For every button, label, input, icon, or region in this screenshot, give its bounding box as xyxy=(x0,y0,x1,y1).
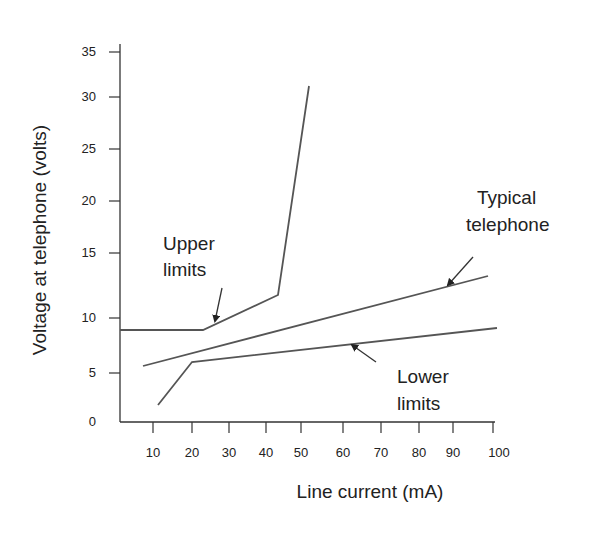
annotation-text: telephone xyxy=(466,214,549,235)
upper-limits-arrow-icon xyxy=(215,288,222,321)
annotation-text: Upper xyxy=(163,233,215,254)
x-tick-label: 50 xyxy=(294,445,308,460)
annotation-text: Lower xyxy=(397,366,449,387)
annotation-upper-limits: Upper limits xyxy=(163,233,215,280)
x-tick-label: 10 xyxy=(146,445,160,460)
y-tick-label: 35 xyxy=(82,44,96,59)
annotation-lower-limits: Lower limits xyxy=(397,366,449,414)
annotation-text: limits xyxy=(397,393,440,414)
annotation-text: Typical xyxy=(477,187,536,208)
y-axis-title: Voltage at telephone (volts) xyxy=(29,125,50,355)
x-tick-label: 30 xyxy=(222,445,236,460)
x-tick-label: 100 xyxy=(488,445,510,460)
x-tick-label: 40 xyxy=(259,445,273,460)
y-tick-label: 25 xyxy=(82,141,96,156)
annotation-typical-telephone: Typical telephone xyxy=(466,187,549,235)
y-tick-label: 5 xyxy=(89,365,96,380)
x-axis xyxy=(120,422,495,433)
lower-limits-arrow-icon xyxy=(352,345,376,362)
y-tick-label: 30 xyxy=(82,89,96,104)
y-tick-label: 20 xyxy=(82,193,96,208)
y-axis xyxy=(109,44,120,422)
x-tick-label: 20 xyxy=(185,445,199,460)
x-tick-label: 70 xyxy=(374,445,388,460)
x-tick-label: 90 xyxy=(446,445,460,460)
y-tick-label: 15 xyxy=(82,245,96,260)
x-axis-title: Line current (mA) xyxy=(297,481,444,502)
x-tick-labels: 10 20 30 40 50 60 70 80 90 100 xyxy=(146,445,510,460)
x-tick-label: 60 xyxy=(336,445,350,460)
y-tick-label: 0 xyxy=(89,414,96,429)
chart-canvas: 35 30 25 20 15 10 5 0 10 20 30 40 50 60 … xyxy=(0,0,595,535)
annotation-text: limits xyxy=(163,259,206,280)
y-tick-label: 10 xyxy=(82,310,96,325)
series-upper-limits xyxy=(120,86,309,330)
y-tick-labels: 35 30 25 20 15 10 5 0 xyxy=(82,44,96,429)
x-tick-label: 80 xyxy=(412,445,426,460)
series-typical-telephone xyxy=(143,276,488,366)
